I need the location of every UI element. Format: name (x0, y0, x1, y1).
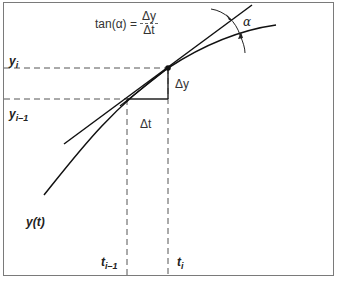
point-i (165, 65, 171, 71)
label-delta-t: Δt (140, 118, 151, 130)
label-delta-y: Δy (175, 78, 189, 90)
label-alpha: α (243, 16, 251, 28)
label-curve-y-of-t: y(t) (26, 216, 45, 228)
secant-line (120, 68, 168, 106)
curve-y-of-t (44, 25, 276, 195)
formula-numerator: Δy (142, 10, 156, 23)
diagram-canvas (0, 0, 337, 282)
slope-formula: tan(α) = Δy Δt (95, 10, 158, 37)
label-t-i-minus-1: ti–1 (101, 256, 118, 268)
label-y-i-minus-1: yi–1 (9, 108, 28, 120)
label-t-i: ti (177, 256, 184, 268)
label-y-i: yi (9, 55, 18, 67)
formula-fraction: Δy Δt (140, 10, 158, 37)
formula-lhs: tan(α) = (95, 17, 137, 31)
formula-denominator: Δt (143, 24, 154, 37)
